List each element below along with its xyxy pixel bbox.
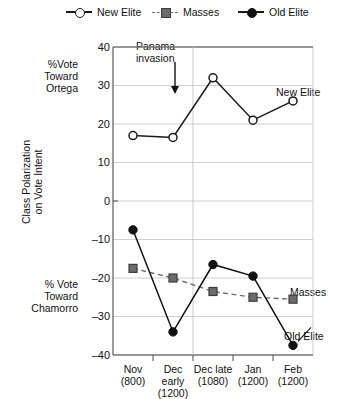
chart-canvas [0,0,340,396]
figure-root: New Elite Masses Old Elite %Vote Toward … [0,0,340,396]
plot-area: %Vote Toward Ortega % Vote Toward Chamor… [0,0,340,396]
